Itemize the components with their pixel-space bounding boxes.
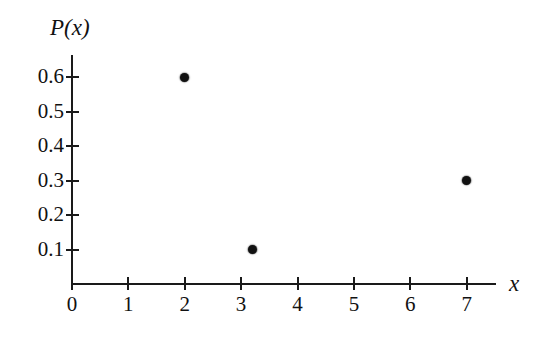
y-axis-tick-label: 0.5: [2, 101, 64, 122]
x-axis-tick: [71, 277, 73, 290]
x-axis-tick: [127, 277, 129, 290]
x-axis-tick-label: 6: [390, 292, 430, 316]
x-axis-tick: [353, 277, 355, 290]
x-axis-line: [72, 283, 496, 285]
y-axis-tick-label: 0.1: [2, 239, 64, 260]
y-axis-tick-label: 0.6: [2, 66, 64, 87]
y-axis-tick-labels: 0.10.20.30.40.50.6: [0, 0, 64, 339]
x-axis-tick-label: 2: [165, 292, 205, 316]
x-axis-tick-label: 5: [334, 292, 374, 316]
y-axis-tick: [66, 145, 79, 147]
probability-scatter-chart: P(x) 0.10.20.30.40.50.6 01234567 x: [0, 0, 549, 339]
data-point: [462, 176, 471, 185]
y-axis-tick: [66, 249, 79, 251]
x-axis-tick-label: 0: [52, 292, 92, 316]
y-axis-tick-label: 0.4: [2, 135, 64, 156]
x-axis-tick: [466, 277, 468, 290]
x-axis-tick-label: 4: [278, 292, 318, 316]
data-point: [180, 73, 189, 82]
x-axis-tick: [184, 277, 186, 290]
x-axis-tick: [409, 277, 411, 290]
x-axis-tick-label: 1: [108, 292, 148, 316]
y-axis-tick-label: 0.2: [2, 204, 64, 225]
x-axis-tick-label: 3: [221, 292, 261, 316]
x-axis-tick: [297, 277, 299, 290]
x-axis-tick-label: 7: [447, 292, 487, 316]
y-axis-tick: [66, 111, 79, 113]
y-axis-tick-label: 0.3: [2, 170, 64, 191]
x-axis-title: x: [509, 270, 519, 298]
y-axis-tick: [66, 76, 79, 78]
y-axis-tick: [66, 180, 79, 182]
y-axis-line: [71, 55, 73, 285]
x-axis-tick: [240, 277, 242, 290]
y-axis-tick: [66, 214, 79, 216]
data-point: [248, 245, 257, 254]
